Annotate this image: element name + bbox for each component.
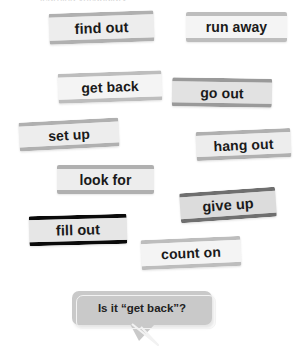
phrasal-verb-card[interactable]: count on xyxy=(140,236,241,270)
phrasal-verb-card-label: run away xyxy=(206,19,268,35)
phrasal-verb-card-label: get back xyxy=(81,78,139,96)
phrasal-verb-card[interactable]: look for xyxy=(57,165,154,194)
phrasal-verb-card-label: set up xyxy=(48,125,91,143)
phrasal-verb-card[interactable]: set up xyxy=(18,117,119,151)
speech-bubble[interactable]: Is it “get back”? xyxy=(72,291,212,325)
phrasal-verb-card-label: go out xyxy=(200,84,244,101)
flashcard-canvas: learning vocabulary find outrun awayget … xyxy=(0,0,298,348)
speech-bubble-tail xyxy=(130,324,155,341)
phrasal-verb-card[interactable]: give up xyxy=(179,187,277,224)
cropped-header-text: learning vocabulary xyxy=(40,0,190,1)
phrasal-verb-card-label: fill out xyxy=(56,221,101,238)
phrasal-verb-card-label: give up xyxy=(202,195,254,215)
phrasal-verb-card[interactable]: find out xyxy=(48,10,154,45)
phrasal-verb-card[interactable]: get back xyxy=(58,70,163,104)
phrasal-verb-card[interactable]: hang out xyxy=(195,128,291,161)
phrasal-verb-card[interactable]: fill out xyxy=(29,214,128,247)
phrasal-verb-card-label: look for xyxy=(79,172,131,188)
phrasal-verb-card-label: find out xyxy=(74,19,128,37)
speech-bubble-text: Is it “get back”? xyxy=(72,291,212,325)
phrasal-verb-card-label: count on xyxy=(161,244,222,263)
phrasal-verb-card[interactable]: run away xyxy=(186,12,287,42)
phrasal-verb-card-label: hang out xyxy=(213,135,274,154)
phrasal-verb-card[interactable]: go out xyxy=(172,77,272,108)
